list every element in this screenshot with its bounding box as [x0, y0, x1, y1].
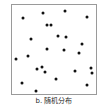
data-point: [86, 84, 89, 87]
data-point: [35, 90, 38, 93]
data-point: [41, 66, 44, 69]
data-point: [78, 52, 81, 55]
data-point: [46, 24, 49, 27]
data-point: [42, 12, 45, 15]
scatter-figure: b. 随机分布: [0, 0, 108, 110]
data-point: [86, 16, 89, 19]
data-point: [30, 38, 33, 41]
data-point: [21, 82, 24, 85]
data-point: [36, 68, 39, 71]
data-point: [57, 35, 60, 38]
data-point: [27, 55, 30, 58]
figure-caption: b. 随机分布: [0, 97, 108, 106]
data-point: [65, 36, 68, 39]
data-point: [90, 67, 93, 70]
data-point: [44, 71, 47, 74]
data-point: [74, 70, 77, 73]
data-point: [64, 10, 67, 13]
data-point: [91, 72, 94, 75]
plot-area: [11, 4, 97, 95]
data-point: [81, 43, 84, 46]
data-point: [50, 24, 53, 27]
data-point: [55, 78, 58, 81]
data-point: [22, 17, 25, 20]
data-point: [63, 49, 66, 52]
data-point: [15, 58, 18, 61]
data-point: [46, 48, 49, 51]
